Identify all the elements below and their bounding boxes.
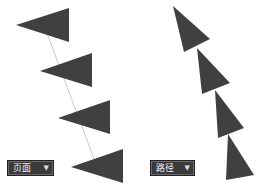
left-triangle-4: [71, 149, 123, 183]
chevron-down-icon: ▼: [44, 161, 49, 175]
chevron-down-icon: ▼: [185, 161, 190, 175]
right-triangle-group: [173, 6, 254, 180]
right-triangle-1: [173, 6, 210, 52]
right-triangle-2: [197, 48, 230, 94]
left-triangle-2: [40, 53, 92, 87]
orient-to-page-dropdown[interactable]: 页面 ▼: [7, 160, 54, 176]
orient-to-path-dropdown[interactable]: 路径 ▼: [150, 160, 195, 176]
motion-path-line: [44, 25, 97, 167]
dropdown-label: 路径: [156, 161, 174, 175]
dropdown-label: 页面: [13, 161, 31, 175]
left-triangle-group: [16, 8, 123, 183]
left-triangle-1: [16, 8, 69, 42]
right-triangle-4: [226, 134, 254, 180]
right-triangle-3: [215, 90, 244, 138]
left-triangle-3: [58, 100, 110, 134]
